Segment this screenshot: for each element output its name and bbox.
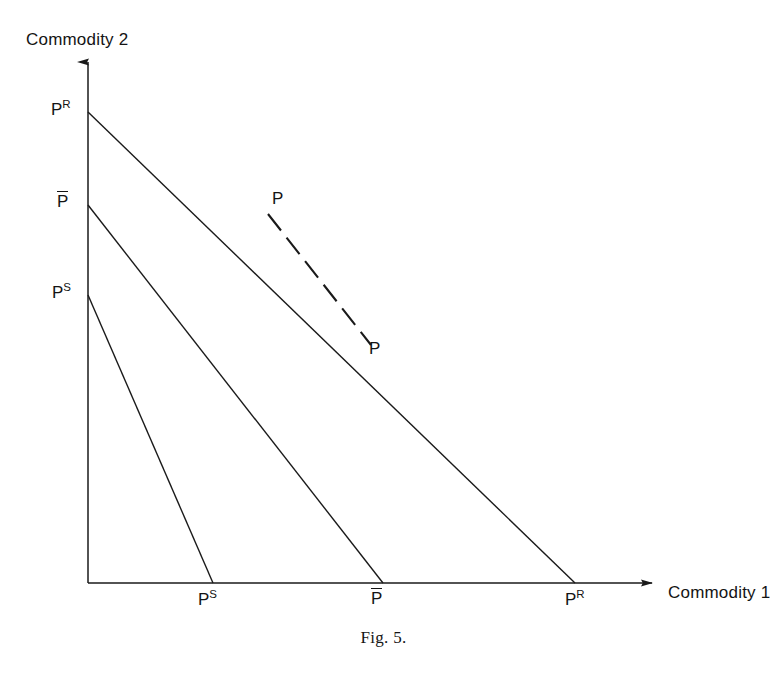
y-intercept-label-pr: PR (51, 101, 71, 118)
y-axis-title: Commodity 2 (26, 30, 128, 50)
budget-line-ps (88, 295, 213, 583)
y-intercept-label-ps: PS (52, 284, 71, 301)
y-intercept-label-ps-superscript: S (63, 281, 71, 293)
y-intercept-label-pr-superscript: R (62, 98, 70, 110)
x-intercept-label-pr: PR (565, 591, 585, 608)
y-intercept-label-pbar: P (57, 192, 68, 210)
y-intercept-label-pbar-base: P (57, 192, 68, 210)
x-intercept-label-ps-superscript: S (209, 588, 217, 600)
x-intercept-label-pbar-base: P (371, 589, 382, 607)
y-intercept-label-pr-base: P (51, 100, 62, 119)
budget-line-pr (88, 112, 575, 583)
x-intercept-label-pr-base: P (565, 590, 576, 609)
figure-caption: Fig. 5. (0, 628, 767, 648)
x-intercept-label-ps: PS (198, 591, 217, 608)
x-intercept-label-ps-base: P (198, 590, 209, 609)
x-intercept-label-pbar: P (371, 589, 382, 607)
y-intercept-label-ps-base: P (52, 283, 63, 302)
dashed-line-lower-label: P (369, 340, 380, 357)
x-intercept-label-pr-superscript: R (576, 588, 584, 600)
budget-line-pbar (88, 205, 383, 583)
budget-line-p-dashed (268, 214, 371, 345)
x-axis-title: Commodity 1 (668, 583, 770, 603)
dashed-line-upper-label: P (272, 190, 283, 207)
